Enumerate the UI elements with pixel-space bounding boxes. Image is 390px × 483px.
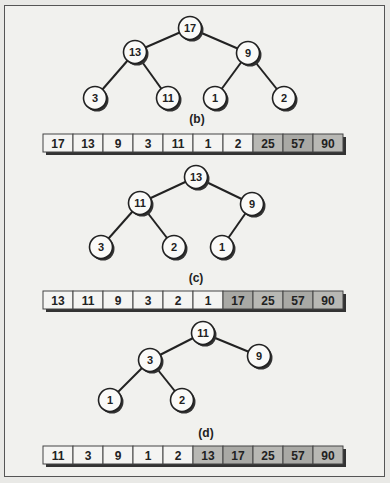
array-cell-value: 9	[115, 294, 122, 308]
array-cell-value: 2	[235, 137, 242, 151]
node-value: 11	[197, 327, 209, 339]
node-value: 9	[249, 198, 255, 210]
array-cell-value: 11	[52, 449, 65, 463]
node-value: 1	[107, 394, 113, 406]
array-cell-value: 57	[291, 294, 305, 308]
array-cell-value: 11	[82, 294, 95, 308]
tree-node: 1	[99, 389, 124, 414]
array-cell-value: 13	[201, 449, 215, 463]
tree-node: 1	[204, 87, 229, 112]
array-cell-value: 2	[175, 294, 182, 308]
array-cell-value: 3	[145, 137, 152, 151]
array-cell-value: 25	[261, 449, 275, 463]
array-cell-value: 11	[172, 137, 185, 151]
tree-node: 17	[179, 17, 204, 42]
array-cell-value: 1	[205, 137, 212, 151]
heap-sort-diagram: 1713931112(b)171393111225579013119321(c)…	[0, 0, 390, 483]
panel-label: (c)	[189, 271, 204, 285]
node-value: 9	[245, 47, 251, 59]
node-value: 3	[147, 354, 153, 366]
node-value: 3	[92, 92, 98, 104]
array-cell-value: 1	[145, 449, 152, 463]
tree-node: 13	[185, 166, 210, 191]
tree-node: 2	[163, 236, 188, 261]
panel-label: (d)	[198, 426, 213, 440]
array-cell-value: 90	[321, 137, 335, 151]
tree-node: 11	[157, 87, 182, 112]
tree-node: 11	[192, 322, 217, 347]
array-row: 1139121317255790	[43, 446, 346, 467]
node-value: 3	[98, 241, 104, 253]
node-value: 11	[162, 92, 174, 104]
node-value: 11	[134, 197, 146, 209]
node-value: 2	[171, 241, 177, 253]
tree-node: 3	[90, 236, 115, 261]
node-value: 1	[212, 92, 218, 104]
node-value: 9	[256, 350, 262, 362]
array-cell-value: 90	[321, 294, 335, 308]
array-cell-value: 25	[261, 137, 275, 151]
tree-node: 9	[248, 345, 273, 370]
array-cell-value: 13	[81, 137, 95, 151]
array-row: 1311932117255790	[43, 291, 346, 312]
node-value: 1	[219, 241, 225, 253]
array-cell-value: 90	[321, 449, 335, 463]
node-value: 2	[281, 92, 287, 104]
tree-node: 2	[171, 389, 196, 414]
array-cell-value: 17	[231, 449, 245, 463]
tree-node: 1	[211, 236, 236, 261]
node-value: 17	[184, 22, 196, 34]
array-cell-value: 17	[51, 137, 65, 151]
tree-node: 3	[84, 87, 109, 112]
array-row: 1713931112255790	[43, 134, 346, 155]
array-cell-value: 25	[261, 294, 275, 308]
array-cell-value: 57	[291, 137, 305, 151]
panel-c: 13119321(c)1311932117255790	[43, 166, 346, 313]
array-cell-value: 9	[115, 449, 122, 463]
panel-b: 1713931112(b)1713931112255790	[43, 17, 346, 156]
panel-label: (b)	[189, 112, 204, 126]
node-value: 13	[190, 171, 202, 183]
array-cell-value: 2	[175, 449, 182, 463]
array-cell-value: 9	[115, 137, 122, 151]
array-cell-value: 3	[85, 449, 92, 463]
panel-d: 113912(d)1139121317255790	[43, 322, 346, 468]
node-value: 2	[179, 394, 185, 406]
tree-node: 2	[273, 87, 298, 112]
array-cell-value: 3	[145, 294, 152, 308]
array-cell-value: 57	[291, 449, 305, 463]
tree-node: 3	[139, 349, 164, 374]
array-cell-value: 13	[51, 294, 65, 308]
array-cell-value: 17	[231, 294, 245, 308]
node-value: 13	[129, 46, 141, 58]
array-cell-value: 1	[205, 294, 212, 308]
